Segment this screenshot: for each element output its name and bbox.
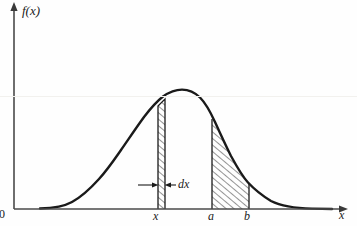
x-axis	[14, 205, 348, 212]
origin-label: 0	[0, 207, 5, 222]
figure-container: f(x) 0 x a b dx x	[0, 0, 357, 226]
x-tick-label-a: a	[208, 209, 214, 224]
dx-strip-hatch	[156, 95, 168, 211]
dx-dimension-arrows	[138, 182, 176, 187]
y-axis	[10, 2, 17, 209]
area-between-a-and-b-hatch	[210, 115, 252, 211]
dx-annotation-label: dx	[178, 177, 189, 192]
density-curve-figure	[0, 0, 357, 226]
y-axis-label: f(x)	[22, 3, 40, 19]
x-tick-label-x: x	[153, 209, 158, 224]
x-axis-label: x	[339, 208, 344, 223]
x-tick-label-b: b	[244, 209, 250, 224]
